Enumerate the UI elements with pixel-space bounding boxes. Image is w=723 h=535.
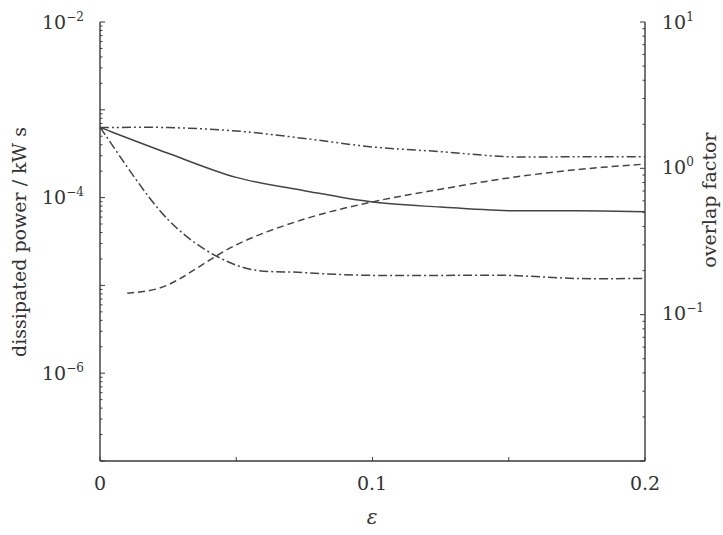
xtick-label: 0.2 [630, 472, 660, 494]
ytick-right-label: 10−1 [662, 301, 704, 324]
series-line-solid [100, 127, 645, 211]
x-tick-labels: 0 0.1 0.2 [94, 472, 660, 494]
x-axis-title: ε [367, 505, 378, 529]
xtick-label: 0.1 [357, 472, 387, 494]
y-axis-title-right: overlap factor [698, 131, 720, 267]
series-line-dash-dot [100, 127, 645, 278]
ytick-left-label: 10−6 [42, 361, 84, 384]
ytick-right-label: 101 [662, 10, 694, 33]
ytick-left-label: 10−4 [42, 185, 84, 208]
chart: 10−2 10−4 10−6 101 100 10−1 0 0.1 0.2 ε … [0, 0, 723, 535]
left-tick-labels: 10−2 10−4 10−6 [42, 10, 84, 384]
ytick-right-label: 100 [662, 155, 694, 178]
tick-marks [100, 22, 645, 461]
axes [100, 22, 645, 461]
ytick-left-label: 10−2 [42, 10, 84, 33]
series-line-dashed [127, 164, 645, 293]
series-line-dash-dot-dot [100, 127, 645, 157]
y-axis-title-left: dissipated power / kW s [8, 127, 30, 357]
series-group [100, 127, 645, 293]
xtick-label: 0 [94, 472, 106, 494]
